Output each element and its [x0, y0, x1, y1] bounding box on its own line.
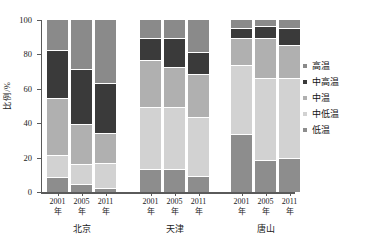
bar-stack: [164, 20, 185, 192]
x-tick-mark: [106, 192, 107, 196]
legend-swatch-icon: [303, 80, 307, 84]
bar-segment: [279, 46, 300, 79]
bar-segment: [164, 39, 185, 68]
x-tick-label: 2011年: [273, 197, 307, 216]
bar-segment: [140, 61, 161, 107]
legend-label: 中低温: [312, 110, 339, 119]
legend-swatch-icon: [303, 64, 307, 68]
x-tick-label-line: 2011: [182, 197, 216, 207]
bar-segment: [47, 20, 68, 51]
bar-segment: [231, 135, 252, 192]
bar-segment: [279, 29, 300, 46]
y-tick-mark: [37, 89, 41, 90]
bar-segment: [255, 27, 276, 39]
y-tick-label: 20: [0, 153, 32, 162]
group-label-0: 北京: [37, 222, 127, 235]
y-tick-mark: [37, 54, 41, 55]
bar-segment: [140, 20, 161, 39]
bar-stack: [255, 20, 276, 192]
bar-segment: [71, 125, 92, 165]
chart-figure: 比例/% 020406080100 2001年2005年2011年2001年20…: [0, 0, 371, 244]
bar-segment: [95, 134, 116, 165]
legend-item-0[interactable]: 高温: [303, 58, 369, 74]
bar-segment: [164, 68, 185, 108]
bar-segment: [188, 118, 209, 176]
legend-swatch-icon: [303, 96, 307, 100]
x-tick-mark: [266, 192, 267, 196]
bar-segment: [71, 70, 92, 125]
x-tick-mark: [199, 192, 200, 196]
bar-segment: [47, 178, 68, 192]
x-tick-mark: [82, 192, 83, 196]
bar-segment: [47, 99, 68, 156]
x-tick-mark: [290, 192, 291, 196]
legend-label: 中高温: [312, 78, 339, 87]
y-tick-mark: [37, 192, 41, 193]
y-tick-label: 80: [0, 50, 32, 59]
x-tick-mark: [58, 192, 59, 196]
bar-segment: [95, 84, 116, 134]
bar-stack: [279, 20, 300, 192]
bar-segment: [188, 75, 209, 118]
bar-segment: [71, 165, 92, 186]
legend-swatch-icon: [303, 128, 307, 132]
bar-segment: [164, 108, 185, 170]
x-tick-mark: [242, 192, 243, 196]
bar-segment: [164, 20, 185, 39]
bar-segment: [95, 164, 116, 188]
x-tick-label-line: 2011: [273, 197, 307, 207]
bar-stack: [140, 20, 161, 192]
legend-label: 低温: [312, 126, 330, 135]
x-tick-label-line: 年: [273, 207, 307, 217]
legend-label: 中温: [312, 94, 330, 103]
x-tick-label-line: 2011: [89, 197, 123, 207]
bar-stack: [188, 20, 209, 192]
x-tick-label: 2011年: [89, 197, 123, 216]
bar-stack: [71, 20, 92, 192]
y-tick-mark: [37, 158, 41, 159]
bar-segment: [164, 170, 185, 192]
legend-item-4[interactable]: 低温: [303, 122, 369, 138]
bar-segment: [279, 79, 300, 160]
bar-segment: [140, 39, 161, 61]
bar-stack: [231, 20, 252, 192]
legend-swatch-icon: [303, 112, 307, 116]
x-tick-label-line: 年: [182, 207, 216, 217]
x-tick-mark: [175, 192, 176, 196]
bar-segment: [140, 170, 161, 192]
plot-area: [41, 20, 295, 192]
x-tick-label-line: 年: [89, 207, 123, 217]
group-label-2: 唐山: [221, 222, 311, 235]
y-tick-label: 0: [0, 188, 32, 197]
bar-segment: [255, 161, 276, 192]
bar-segment: [231, 20, 252, 29]
bar-segment: [255, 79, 276, 162]
bar-segment: [255, 20, 276, 27]
legend-item-1[interactable]: 中高温: [303, 74, 369, 90]
bar-segment: [71, 20, 92, 70]
bar-stack: [47, 20, 68, 192]
bar-segment: [140, 108, 161, 170]
bar-segment: [255, 39, 276, 79]
bar-segment: [95, 20, 116, 84]
bar-segment: [279, 20, 300, 29]
y-tick-label: 100: [0, 16, 32, 25]
bar-segment: [188, 20, 209, 53]
bar-segment: [47, 156, 68, 178]
bar-segment: [231, 66, 252, 135]
legend-item-3[interactable]: 中低温: [303, 106, 369, 122]
bar-segment: [188, 53, 209, 75]
y-tick-label: 60: [0, 85, 32, 94]
bar-segment: [71, 185, 92, 192]
bar-segment: [188, 177, 209, 192]
bar-segment: [231, 39, 252, 67]
x-axis-line: [41, 192, 295, 194]
y-tick-mark: [37, 20, 41, 21]
x-tick-label: 2011年: [182, 197, 216, 216]
bar-segment: [231, 29, 252, 39]
x-tick-mark: [151, 192, 152, 196]
bar-segment: [47, 51, 68, 99]
bar-stack: [95, 20, 116, 192]
y-tick-label: 40: [0, 119, 32, 128]
legend-item-2[interactable]: 中温: [303, 90, 369, 106]
